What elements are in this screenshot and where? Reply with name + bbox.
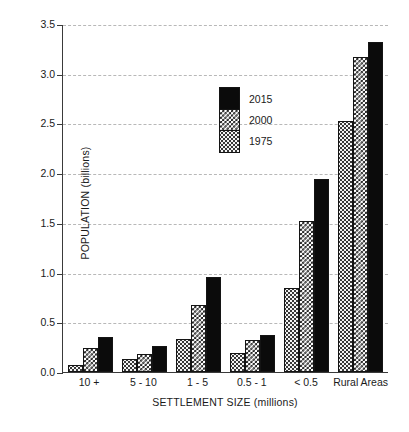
bar-2015-5-10: [152, 346, 167, 372]
bar-group--0-5: [284, 25, 329, 372]
y-tick-0.0: [57, 373, 63, 374]
bar-2000-rural-areas: [353, 57, 368, 372]
legend-label-2000: 2000: [249, 109, 272, 130]
y-tick-label-3.0: 3.0: [25, 68, 55, 80]
legend-swatch-2000: [220, 109, 239, 131]
legend-swatch-stack: [219, 87, 240, 153]
bar-1975-0-5-1: [230, 353, 245, 372]
bar-group-0-5-1: [230, 25, 275, 372]
legend-swatch-2015: [220, 88, 239, 109]
plot-area: 0.00.51.01.52.02.53.03.5 2015 2000 1975 …: [62, 25, 388, 373]
y-tick-label-2.0: 2.0: [25, 167, 55, 179]
bar-1975-10-: [68, 365, 83, 372]
bar-2000-5-10: [137, 354, 152, 372]
y-axis-title: POPULATION (billions): [79, 103, 91, 303]
legend-label-1975: 1975: [249, 131, 272, 152]
bar-group-5-10: [122, 25, 167, 372]
x-category--0-5: < 0.5: [279, 376, 333, 388]
y-tick-label-2.5: 2.5: [25, 117, 55, 129]
legend-label-stack: 2015 2000 1975: [249, 87, 272, 153]
bar-groups: [63, 25, 388, 372]
bar-2015-10-: [98, 337, 113, 372]
x-axis-title: SETTLEMENT SIZE (millions): [62, 396, 388, 408]
y-tick-label-0.5: 0.5: [25, 316, 55, 328]
x-category-0-5-1: 0.5 - 1: [225, 376, 279, 388]
bar-2015--0-5: [314, 179, 329, 372]
bar-2000-1-5: [191, 305, 206, 372]
x-category-1-5: 1 - 5: [170, 376, 224, 388]
y-tick-label-0.0: 0.0: [25, 366, 55, 378]
bar-1975-5-10: [122, 359, 137, 372]
bar-2015-rural-areas: [368, 42, 383, 372]
legend-label-2015: 2015: [249, 88, 272, 109]
bar-1975-1-5: [176, 339, 191, 372]
bar-1975--0-5: [284, 288, 299, 372]
bar-2000-0-5-1: [245, 340, 260, 372]
x-axis-category-labels: 10 +5 - 101 - 50.5 - 1< 0.5Rural Areas: [62, 376, 388, 388]
bar-group-1-5: [176, 25, 221, 372]
bar-2000-10-: [83, 348, 98, 372]
population-settlement-size-bar-chart: 0.00.51.01.52.02.53.03.5 2015 2000 1975 …: [0, 0, 409, 432]
y-tick-label-3.5: 3.5: [25, 18, 55, 30]
bar-2000--0-5: [299, 221, 314, 372]
bar-2015-1-5: [206, 277, 221, 372]
x-category-5-10: 5 - 10: [116, 376, 170, 388]
x-category-10-: 10 +: [62, 376, 116, 388]
bar-1975-rural-areas: [338, 121, 353, 372]
bar-group-rural-areas: [338, 25, 383, 372]
legend-swatch-1975: [220, 130, 239, 152]
y-tick-label-1.0: 1.0: [25, 267, 55, 279]
chart-legend: 2015 2000 1975: [219, 87, 272, 153]
x-category-rural-areas: Rural Areas: [333, 376, 388, 388]
y-tick-label-1.5: 1.5: [25, 217, 55, 229]
bar-2015-0-5-1: [260, 335, 275, 372]
